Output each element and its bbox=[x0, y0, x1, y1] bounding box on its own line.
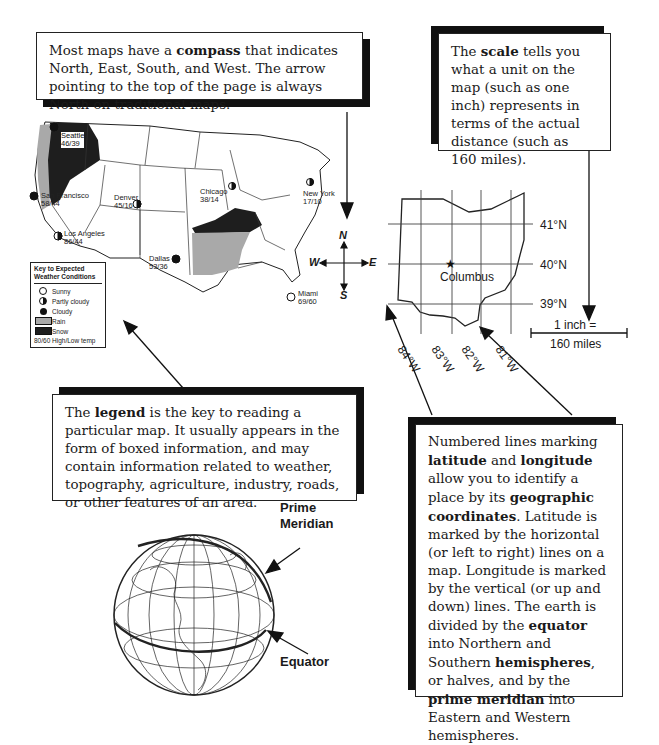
scale-label-line1: 1 inch = bbox=[554, 318, 596, 332]
cloudy-icon bbox=[40, 308, 47, 315]
compass-east-label: E bbox=[369, 256, 376, 268]
legend-item-sunny: Sunny bbox=[34, 286, 102, 296]
term-scale: scale bbox=[481, 43, 519, 59]
legend-item-partly-cloudy: Partly cloudy bbox=[34, 296, 102, 306]
city-temp: 69/60 bbox=[298, 298, 318, 306]
term-prime-meridian: prime meridian bbox=[428, 691, 545, 707]
text: Numbered lines marking bbox=[428, 434, 598, 449]
arrow-legend bbox=[124, 321, 183, 388]
city-temp: 58/44 bbox=[41, 200, 89, 208]
city-temp: 45/16 bbox=[114, 202, 138, 210]
city-label-san-francisco: San Francisco 58/44 bbox=[41, 192, 89, 208]
legend-footer: 80/60 High/Low temp bbox=[34, 337, 102, 344]
city-temp: 38/14 bbox=[200, 196, 228, 204]
term-latitude: latitude bbox=[428, 452, 487, 468]
arrow-scale bbox=[583, 150, 595, 320]
rain-swatch-icon bbox=[35, 317, 52, 325]
arrow-equator bbox=[268, 631, 308, 654]
text: tells you what a unit on the map (such a… bbox=[451, 44, 580, 167]
term-longitude: longitude bbox=[521, 452, 593, 468]
term-hemispheres: hemispheres bbox=[495, 654, 591, 670]
city-label-denver: Denver 45/16 bbox=[114, 194, 138, 210]
legend-title: Key to Expected Weather Conditions bbox=[34, 265, 102, 284]
compass-north-label: N bbox=[339, 229, 347, 241]
columbus-label: Columbus bbox=[440, 270, 494, 284]
label-line: Prime bbox=[280, 500, 333, 516]
city-label-miami: Miami 69/60 bbox=[298, 290, 318, 306]
text: . Latitude is marked by the horizontal (… bbox=[428, 509, 606, 633]
legend-title-line: Key to Expected bbox=[34, 265, 102, 273]
latitude-label-40: 40°N bbox=[540, 258, 567, 272]
text: and bbox=[487, 453, 521, 468]
legend-label: Partly cloudy bbox=[52, 298, 89, 305]
columbus-star-icon: ★ bbox=[445, 257, 456, 271]
city-label-los-angeles: Los Angeles 86/44 bbox=[64, 230, 105, 246]
city-temp: 86/44 bbox=[64, 238, 105, 246]
city-temp: 46/39 bbox=[61, 140, 84, 148]
city-temp: 53/36 bbox=[149, 263, 170, 271]
sunny-icon bbox=[39, 287, 47, 295]
callout-compass: Most maps have a compass that indicates … bbox=[36, 32, 363, 100]
legend-item-cloudy: Cloudy bbox=[34, 306, 102, 316]
weather-legend-key: Key to Expected Weather Conditions Sunny… bbox=[30, 262, 106, 348]
legend-item-snow: Snow bbox=[34, 326, 102, 336]
latitude-label-39: 39°N bbox=[540, 297, 567, 311]
partly-cloudy-icon bbox=[39, 297, 47, 305]
legend-title-line: Weather Conditions bbox=[34, 273, 102, 281]
city-label-dallas: Dallas 53/36 bbox=[149, 255, 170, 271]
ohio-grid bbox=[388, 190, 533, 334]
text: The bbox=[451, 44, 481, 59]
legend-label: Cloudy bbox=[52, 308, 72, 315]
compass-south-label: S bbox=[340, 289, 347, 301]
text: is the key to reading a particular map. … bbox=[65, 405, 340, 510]
arrow-prime-meridian bbox=[266, 548, 300, 573]
term-compass: compass bbox=[176, 42, 240, 58]
callout-legend: The legend is the key to reading a parti… bbox=[52, 394, 357, 501]
prime-meridian-label: Prime Meridian bbox=[280, 500, 333, 532]
globe bbox=[114, 535, 274, 695]
city-label-new-york: New York 17/10 bbox=[303, 190, 335, 206]
callout-latitude-longitude: Numbered lines marking latitude and long… bbox=[415, 424, 623, 697]
text: The bbox=[65, 405, 95, 420]
legend-label: Rain bbox=[52, 318, 65, 325]
city-temp: 17/10 bbox=[303, 198, 335, 206]
callout-scale: The scale tells you what a unit on the m… bbox=[438, 33, 611, 151]
term-legend: legend bbox=[95, 404, 146, 420]
prime-meridian-line bbox=[138, 539, 271, 602]
city-label-seattle: Seattle 46/39 bbox=[61, 132, 84, 148]
equator-label: Equator bbox=[280, 654, 329, 669]
snow-swatch-icon bbox=[35, 327, 52, 335]
arrow-compass bbox=[341, 112, 353, 218]
compass-west-label: W bbox=[309, 256, 319, 268]
compass-rose bbox=[320, 242, 368, 290]
legend-label: Snow bbox=[52, 328, 68, 335]
legend-item-rain: Rain bbox=[34, 316, 102, 326]
label-line: Meridian bbox=[280, 516, 333, 532]
legend-label: Sunny bbox=[52, 288, 70, 295]
text: Most maps have a bbox=[49, 43, 176, 58]
term-equator: equator bbox=[529, 617, 587, 633]
city-label-chicago: Chicago 38/14 bbox=[200, 188, 228, 204]
scale-label-line2: 160 miles bbox=[550, 337, 601, 351]
latitude-label-41: 41°N bbox=[540, 218, 567, 232]
ohio-map bbox=[398, 193, 524, 326]
